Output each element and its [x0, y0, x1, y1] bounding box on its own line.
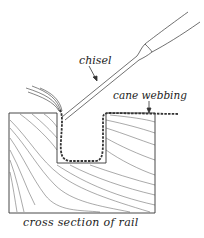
chisel-label: chisel: [79, 54, 111, 67]
rail-outline: [9, 113, 155, 213]
cane-webbing: [60, 110, 178, 161]
cane-webbing-label: cane webbing: [113, 89, 187, 101]
diagram-caption: cross section of rail: [23, 216, 139, 229]
cane-ends: [26, 86, 62, 112]
rail-diagram: [0, 0, 204, 238]
